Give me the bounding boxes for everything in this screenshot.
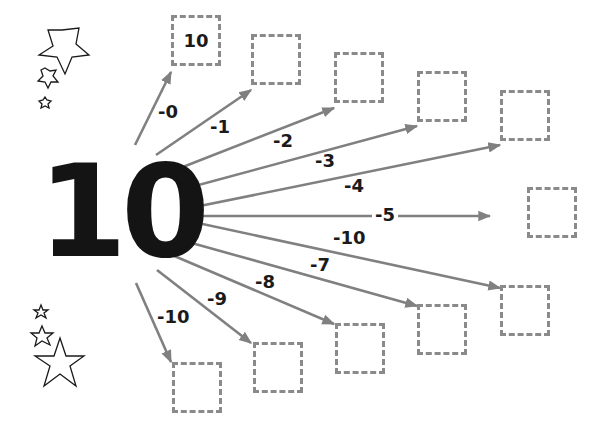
answer-box[interactable]: [253, 342, 303, 393]
answer-box[interactable]: [417, 304, 467, 355]
answer-box[interactable]: 10: [171, 15, 221, 66]
answer-box[interactable]: [500, 90, 550, 141]
operation-label: -5: [372, 206, 398, 224]
operation-label: -2: [273, 132, 293, 150]
answer-box[interactable]: [417, 71, 467, 122]
small-star-icon: [34, 305, 48, 318]
operation-label: -10: [157, 308, 190, 326]
operation-label: -8: [255, 273, 275, 291]
answer-box[interactable]: [500, 285, 550, 336]
medium-star-icon: [31, 326, 53, 346]
operation-label: -0: [158, 103, 178, 121]
operation-label: -9: [207, 290, 227, 308]
operation-label: -1: [210, 118, 230, 136]
operation-label: -10: [333, 229, 366, 247]
small-star-icon: [39, 97, 51, 108]
large-star-icon: [35, 338, 84, 386]
operation-label: -4: [344, 177, 364, 195]
answer-box[interactable]: [335, 323, 385, 374]
answer-box[interactable]: [172, 362, 222, 413]
operation-label: -7: [310, 256, 330, 274]
operation-label: -3: [315, 152, 335, 170]
center-number: 10: [38, 148, 204, 276]
star-decoration-top: [38, 28, 89, 108]
answer-box[interactable]: [251, 34, 301, 85]
answer-box[interactable]: [334, 52, 384, 103]
star-decoration-bottom: [31, 305, 84, 386]
answer-box[interactable]: [527, 187, 577, 238]
large-star-icon: [39, 28, 89, 74]
medium-star-icon: [38, 68, 58, 88]
